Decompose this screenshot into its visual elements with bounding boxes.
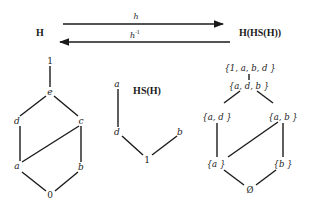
poset-node-a: a xyxy=(114,80,119,89)
node-c: c xyxy=(78,117,83,126)
set-node-ab: {a, b } xyxy=(268,113,297,122)
set-node-empty: Ø xyxy=(247,186,254,195)
node-1: 1 xyxy=(47,57,53,66)
node-a: a xyxy=(14,162,19,171)
set-node-adb: {a, d, b } xyxy=(229,82,269,91)
node-0: 0 xyxy=(47,191,53,200)
poset-node-1: 1 xyxy=(144,156,150,165)
node-b: b xyxy=(78,163,84,172)
set-node-b: {b } xyxy=(274,160,293,169)
set-node-a: {a } xyxy=(207,160,226,169)
poset-node-b: b xyxy=(177,128,183,137)
middle-poset-edges xyxy=(118,89,177,155)
poset-title: HS(H) xyxy=(133,86,161,96)
set-node-ad: {a, d } xyxy=(202,113,231,122)
poset-node-d: d xyxy=(114,128,120,137)
set-node-1abd: {1, a, b, d } xyxy=(224,64,275,73)
left-lattice-edges xyxy=(20,66,81,191)
node-e: e xyxy=(47,88,52,97)
node-d: d xyxy=(14,117,20,126)
hhs-lattice-label: H(HS(H)) xyxy=(239,28,281,38)
forward-map-label: h xyxy=(133,13,138,21)
inverse-map-label: h-1 xyxy=(130,30,140,40)
h-lattice-label: H xyxy=(36,28,44,38)
